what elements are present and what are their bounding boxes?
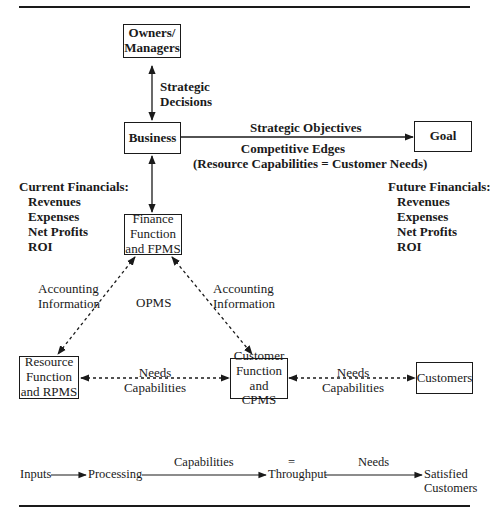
label-opms: OPMS <box>136 296 171 311</box>
label-accounting-info-left: Accounting Information <box>38 282 98 312</box>
node-finance-function: Finance Function and FPMS <box>124 214 182 255</box>
flow-capabilities: Capabilities <box>174 455 234 469</box>
owners-line1: Owners/ <box>129 26 176 41</box>
node-customers: Customers <box>416 362 473 394</box>
needs-caps-1-line2: Capabilities <box>120 381 190 396</box>
accounting-left-line2: Information <box>38 297 98 312</box>
needs-caps-2-line2: Capabilities <box>318 381 388 396</box>
satisfied-line2: Customers <box>424 481 477 495</box>
satisfied-line1: Satisfied <box>424 467 477 481</box>
customer-fn-line2: Function <box>236 364 282 379</box>
finance-line1: Finance <box>132 212 173 227</box>
goal-label: Goal <box>430 129 457 144</box>
flow-throughput: Throughput <box>268 467 327 481</box>
strategic-decisions-line1: Strategic <box>160 80 212 95</box>
flow-processing: Processing <box>88 467 142 481</box>
future-financials-item: ROI <box>397 240 491 255</box>
node-owners-managers: Owners/ Managers <box>123 24 181 58</box>
current-financials-item: Net Profits <box>28 225 129 240</box>
node-resource-function: Resource Function and RPMS <box>19 356 79 399</box>
label-competitive-edges: Competitive Edges (Resource Capabilities… <box>193 142 393 172</box>
resource-line2: Function <box>26 370 72 385</box>
finance-line2: Function <box>130 227 176 242</box>
current-financials-title: Current Financials: <box>19 180 129 195</box>
future-financials-item: Expenses <box>397 210 491 225</box>
flow-inputs: Inputs <box>20 467 51 481</box>
label-accounting-info-right: Accounting Information <box>213 282 273 312</box>
needs-caps-2-line1: Needs <box>318 366 388 381</box>
future-financials-item: Revenues <box>397 195 491 210</box>
node-goal: Goal <box>414 121 472 152</box>
future-financials: Future Financials: Revenues Expenses Net… <box>388 180 491 255</box>
node-customer-function: Customer Function and CPMS <box>230 358 288 399</box>
current-financials-item: Expenses <box>28 210 129 225</box>
customer-fn-line3: and CPMS <box>231 379 287 409</box>
flow-needs: Needs <box>358 455 389 469</box>
accounting-right-line2: Information <box>213 297 273 312</box>
accounting-left-line1: Accounting <box>38 282 98 297</box>
connector-arrows <box>0 0 495 525</box>
competitive-edges-line2: (Resource Capabilities = Customer Needs) <box>193 157 393 172</box>
accounting-right-line1: Accounting <box>213 282 273 297</box>
finance-line3: and FPMS <box>125 242 180 257</box>
node-business: Business <box>124 122 181 154</box>
flow-satisfied-customers: Satisfied Customers <box>424 467 477 496</box>
current-financials: Current Financials: Revenues Expenses Ne… <box>19 180 129 255</box>
competitive-edges-line1: Competitive Edges <box>193 142 393 157</box>
future-financials-item: Net Profits <box>397 225 491 240</box>
label-strategic-decisions: Strategic Decisions <box>160 80 212 110</box>
owners-line2: Managers <box>124 41 180 56</box>
label-strategic-objectives: Strategic Objectives <box>250 121 362 136</box>
business-label: Business <box>129 131 177 146</box>
customers-label: Customers <box>417 371 473 386</box>
label-needs-capabilities-2: Needs Capabilities <box>318 366 388 396</box>
future-financials-title: Future Financials: <box>388 180 491 195</box>
customer-fn-line1: Customer <box>234 349 285 364</box>
resource-line3: and RPMS <box>21 385 78 400</box>
label-needs-capabilities-1: Needs Capabilities <box>120 366 190 396</box>
current-financials-item: Revenues <box>28 195 129 210</box>
strategic-decisions-line2: Decisions <box>160 95 212 110</box>
resource-line1: Resource <box>25 355 73 370</box>
needs-caps-1-line1: Needs <box>120 366 190 381</box>
current-financials-item: ROI <box>28 240 129 255</box>
